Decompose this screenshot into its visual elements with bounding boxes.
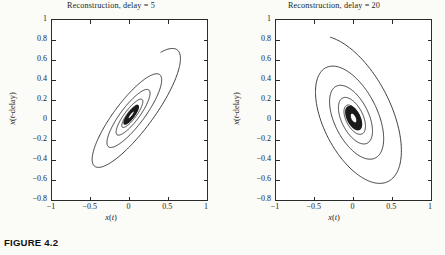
y-tick-mark — [204, 120, 208, 121]
y-tick-mark — [52, 120, 56, 121]
trajectory-path — [316, 37, 402, 183]
y-tick-mark — [428, 60, 432, 61]
y-tick-mark — [276, 160, 280, 161]
x-tick-mark — [90, 20, 91, 24]
y-tick-mark — [428, 40, 432, 41]
y-axis-label: x(t-delay) — [8, 79, 17, 139]
y-tick-mark — [52, 160, 56, 161]
y-tick-label: −0.8 — [0, 195, 47, 203]
y-tick-mark — [428, 100, 432, 101]
y-tick-mark — [204, 140, 208, 141]
x-tick-label: 0 — [351, 203, 355, 211]
y-tick-label: −0.4 — [0, 155, 47, 163]
y-tick-mark — [276, 140, 280, 141]
x-tick-mark — [168, 197, 169, 201]
y-tick-mark — [52, 140, 56, 141]
plot-axes — [275, 19, 432, 201]
plot-panel-delay-5: Reconstruction, delay = 5 x(t-delay) x(t… — [0, 0, 222, 222]
x-tick-label: −1 — [47, 203, 56, 211]
y-tick-mark — [204, 100, 208, 101]
y-tick-mark — [52, 180, 56, 181]
y-tick-label: −0.2 — [0, 135, 47, 143]
x-tick-mark — [353, 197, 354, 201]
x-tick-mark — [168, 20, 169, 24]
y-tick-mark — [204, 180, 208, 181]
x-axis-label: x(t) — [223, 213, 445, 222]
y-tick-mark — [276, 80, 280, 81]
spiral-curve — [276, 20, 431, 200]
x-tick-label: 0.5 — [162, 203, 172, 211]
plot-axes — [51, 19, 208, 201]
y-tick-mark — [276, 180, 280, 181]
y-tick-mark — [52, 40, 56, 41]
x-tick-label: −1 — [271, 203, 280, 211]
x-tick-mark — [392, 20, 393, 24]
y-tick-label: 0.8 — [223, 35, 271, 43]
figure-page: Reconstruction, delay = 5 x(t-delay) x(t… — [0, 0, 445, 255]
y-tick-label: 0 — [0, 115, 47, 123]
y-tick-mark — [276, 100, 280, 101]
y-tick-mark — [276, 120, 280, 121]
x-tick-label: 1 — [428, 203, 432, 211]
y-tick-mark — [428, 180, 432, 181]
x-tick-mark — [392, 197, 393, 201]
y-tick-label: 0.2 — [223, 95, 271, 103]
x-tick-label: −0.5 — [82, 203, 97, 211]
plot-title: Reconstruction, delay = 5 — [0, 1, 222, 10]
y-tick-mark — [204, 60, 208, 61]
x-tick-mark — [129, 197, 130, 201]
y-tick-mark — [52, 100, 56, 101]
x-tick-mark — [90, 197, 91, 201]
x-tick-mark — [129, 20, 130, 24]
y-tick-mark — [428, 160, 432, 161]
x-tick-label: 1 — [204, 203, 208, 211]
y-tick-label: 0.4 — [0, 75, 47, 83]
x-tick-mark — [314, 197, 315, 201]
y-tick-label: 0 — [223, 115, 271, 123]
y-tick-label: 1 — [0, 15, 47, 23]
y-tick-mark — [428, 120, 432, 121]
y-tick-mark — [204, 80, 208, 81]
y-tick-label: 0.6 — [0, 55, 47, 63]
y-tick-label: −0.8 — [223, 195, 271, 203]
y-tick-mark — [52, 80, 56, 81]
y-tick-mark — [204, 40, 208, 41]
y-tick-label: 0.2 — [0, 95, 47, 103]
figure-caption: FIGURE 4.2 — [4, 237, 58, 248]
y-tick-label: 0.6 — [223, 55, 271, 63]
y-tick-label: 0.8 — [0, 35, 47, 43]
y-tick-mark — [428, 140, 432, 141]
x-tick-mark — [314, 20, 315, 24]
y-tick-mark — [276, 60, 280, 61]
plot-panel-delay-20: Reconstruction, delay = 20 x(t-delay) x(… — [223, 0, 445, 222]
y-tick-mark — [276, 40, 280, 41]
y-tick-label: −0.6 — [0, 175, 47, 183]
y-tick-mark — [204, 160, 208, 161]
y-tick-mark — [428, 80, 432, 81]
spiral-curve — [52, 20, 207, 200]
y-tick-label: 0.4 — [223, 75, 271, 83]
x-axis-label: x(t) — [0, 213, 222, 222]
y-axis-label: x(t-delay) — [232, 79, 241, 139]
y-tick-label: −0.6 — [223, 175, 271, 183]
x-tick-label: −0.5 — [306, 203, 321, 211]
trajectory-core — [346, 106, 362, 130]
x-tick-label: 0 — [127, 203, 131, 211]
plot-title: Reconstruction, delay = 20 — [223, 1, 445, 10]
y-tick-label: 1 — [223, 15, 271, 23]
y-tick-label: −0.2 — [223, 135, 271, 143]
y-tick-label: −0.4 — [223, 155, 271, 163]
y-tick-mark — [52, 60, 56, 61]
x-tick-mark — [353, 20, 354, 24]
x-tick-label: 0.5 — [386, 203, 396, 211]
